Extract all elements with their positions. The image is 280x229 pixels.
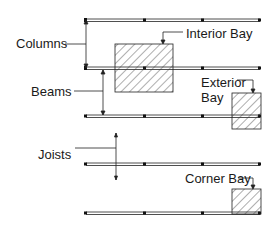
label-beams: Beams: [31, 84, 72, 99]
exterior-bay-region: [232, 93, 261, 129]
label-interior-bay: Interior Bay: [186, 26, 253, 41]
label-corner-bay: Corner Bay: [185, 171, 251, 186]
label-exterior-bay-line1: Exterior: [201, 75, 246, 90]
joists-dimension: [75, 133, 118, 180]
label-exterior-bay-line2: Bay: [201, 90, 224, 105]
interior-bay-region: [115, 44, 173, 92]
label-columns: Columns: [16, 36, 68, 51]
corner-bay-region: [232, 189, 261, 214]
columns-dimension: [65, 20, 88, 68]
label-joists: Joists: [38, 147, 72, 162]
structural-bay-diagram: Columns Beams Joists Interior Bay Exteri…: [0, 0, 280, 229]
beams-dimension: [74, 70, 105, 115]
